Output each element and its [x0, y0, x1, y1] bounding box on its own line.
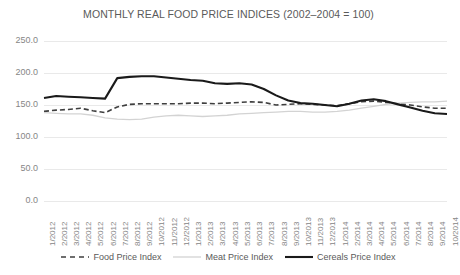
x-axis-tick-label: 11/2012 [170, 218, 179, 246]
x-axis-tick-label: 8/2014 [426, 222, 435, 246]
chart-legend: Food Price IndexMeat Price IndexCereals … [0, 252, 457, 262]
series-line-0 [44, 101, 447, 113]
y-axis-tick-label: 100.0 [0, 131, 38, 141]
legend-item-0[interactable]: Food Price Index [61, 252, 161, 262]
legend-item-2[interactable]: Cereals Price Index [285, 252, 396, 262]
x-axis-tick-label: 10/2012 [157, 217, 166, 246]
legend-item-label: Cereals Price Index [317, 252, 396, 262]
series-line-2 [44, 76, 447, 114]
x-axis-tick-label: 3/2013 [218, 222, 227, 246]
x-axis-tick-label: 3/2014 [365, 222, 374, 246]
x-axis-tick-label: 6/2012 [109, 222, 118, 246]
legend-item-1[interactable]: Meat Price Index [173, 252, 273, 262]
x-axis-tick-label: 7/2013 [267, 222, 276, 246]
x-axis-tick-label: 9/2014 [438, 222, 447, 246]
x-axis-tick-label: 6/2014 [402, 222, 411, 246]
x-axis-tick-label: 4/2014 [377, 222, 386, 246]
x-axis-tick-label: 4/2013 [231, 222, 240, 246]
y-axis-tick-label: 150.0 [0, 99, 38, 109]
x-axis-tick-label: 7/2012 [121, 222, 130, 246]
x-axis-tick-label: 4/2012 [84, 222, 93, 246]
x-axis-tick-label: 5/2014 [389, 222, 398, 246]
legend-item-label: Food Price Index [93, 252, 161, 262]
legend-item-label: Meat Price Index [205, 252, 273, 262]
x-axis-tick-label: 8/2012 [133, 222, 142, 246]
x-axis-tick-label: 12/2012 [182, 217, 191, 246]
x-axis-tick-label: 8/2013 [280, 222, 289, 246]
x-axis-tick-label: 5/2012 [96, 222, 105, 246]
x-axis-tick-label: 6/2013 [255, 222, 264, 246]
x-axis-tick-label: 9/2013 [292, 222, 301, 246]
x-axis-tick-label: 10/2014 [451, 217, 460, 246]
x-axis-tick-label: 7/2014 [414, 222, 423, 246]
legend-swatch-icon [285, 252, 313, 262]
x-axis-tick-label: 3/2012 [72, 222, 81, 246]
x-axis-tick-label: 2/2012 [60, 222, 69, 246]
series-line-1 [44, 101, 447, 120]
x-axis-tick-label: 1/2013 [194, 222, 203, 246]
legend-swatch-icon [173, 252, 201, 262]
y-axis-tick-label: 250.0 [0, 35, 38, 45]
x-axis-tick-label: 5/2013 [243, 222, 252, 246]
y-axis-tick-label: 50.0 [0, 163, 38, 173]
y-axis-tick-label: 200.0 [0, 67, 38, 77]
x-axis-tick-label: 2/2014 [353, 222, 362, 246]
x-axis-tick-label: 2/2013 [206, 222, 215, 246]
legend-swatch-icon [61, 252, 89, 262]
x-axis-tick-label: 10/2013 [304, 217, 313, 246]
y-axis-tick-label: 0.0 [0, 195, 38, 205]
x-axis-tick-label: 1/2014 [341, 222, 350, 246]
x-axis-tick-label: 1/2012 [48, 222, 57, 246]
x-axis-tick-label: 9/2012 [145, 222, 154, 246]
x-axis-tick-label: 11/2013 [316, 218, 325, 246]
x-axis-tick-label: 12/2013 [328, 217, 337, 246]
